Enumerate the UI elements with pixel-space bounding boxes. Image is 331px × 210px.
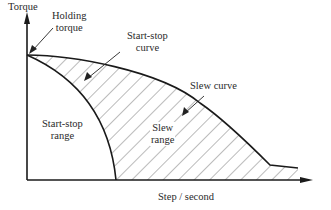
slew-range-label: Slew range — [150, 122, 175, 146]
slew-range-line2: range — [151, 134, 174, 146]
start-stop-curve-line2: curve — [127, 42, 168, 54]
holding-torque-label: Holding torque — [52, 10, 86, 34]
holding-torque-line1: Holding — [52, 10, 86, 22]
start-stop-curve-label: Start-stop curve — [127, 30, 168, 54]
y-axis-label: Torque — [8, 1, 38, 13]
slew-range-line1: Slew — [151, 122, 174, 134]
start-stop-curve-line1: Start-stop — [127, 30, 168, 42]
start-stop-range-line2: range — [42, 130, 83, 142]
start-stop-range-label: Start-stop range — [42, 118, 83, 142]
start-stop-range-line1: Start-stop — [42, 118, 83, 130]
x-axis-label: Step / second — [158, 191, 214, 203]
slew-curve-label: Slew curve — [190, 80, 237, 92]
holding-torque-arrow — [29, 28, 53, 54]
y-axis — [24, 12, 30, 180]
holding-torque-line2: torque — [52, 22, 86, 34]
